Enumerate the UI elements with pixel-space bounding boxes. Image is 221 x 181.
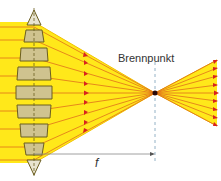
prism-top-triangle <box>27 10 41 25</box>
focal-point-dot <box>153 91 158 96</box>
prism-bottom-triangle <box>27 160 41 175</box>
focal-point-label: Brennpunkt <box>118 52 174 64</box>
diagram-canvas <box>0 0 221 181</box>
prism-5 <box>17 105 51 118</box>
prism-4 <box>16 86 52 99</box>
focal-length-label: f <box>95 156 98 170</box>
fresnel-lens-diagram: Brennpunkt f <box>0 0 221 181</box>
